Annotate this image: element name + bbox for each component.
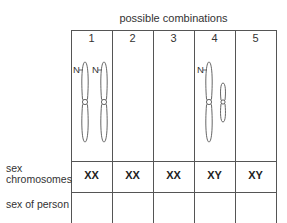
chromosome-n-label: N — [197, 64, 204, 75]
chromosome-y-icon — [221, 83, 226, 122]
chromosome-n-label: N — [92, 64, 99, 75]
chromosome-x-icon — [203, 62, 212, 142]
chromosome-x-icon — [98, 62, 107, 142]
chromosome-drawings — [0, 0, 287, 223]
chromosome-x-icon — [79, 62, 88, 142]
chromosome-n-label: N — [73, 64, 80, 75]
